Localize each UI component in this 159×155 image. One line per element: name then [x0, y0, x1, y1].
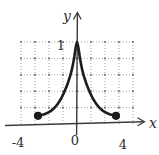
- y-tick-label-1: 1: [57, 38, 65, 53]
- grid-intersection-dot: [62, 58, 64, 60]
- function-plot-canvas: y 1 0 -4 4 x: [0, 0, 159, 155]
- grid-intersection-dot: [20, 58, 22, 60]
- grid-intersection-dot: [132, 107, 134, 109]
- x-tick-label-pos4: 4: [119, 137, 127, 152]
- left-endpoint-dot: [34, 112, 42, 120]
- y-axis-line: [77, 13, 78, 135]
- grid-intersection-dot: [20, 90, 22, 92]
- grid-intersection-dot: [118, 41, 120, 43]
- grid-intersection-dot: [118, 74, 120, 76]
- grid-intersection-dot: [90, 107, 92, 109]
- function-plot-figure: y 1 0 -4 4 x: [0, 0, 159, 155]
- right-endpoint-dot: [112, 112, 120, 120]
- grid-intersection-dot: [34, 58, 36, 60]
- grid-intersection-dot: [34, 74, 36, 76]
- origin-label: 0: [71, 133, 79, 148]
- grid-intersection-dot: [118, 107, 120, 109]
- grid-intersection-dot: [118, 58, 120, 60]
- grid-intersection-dot: [104, 58, 106, 60]
- grid-intersection-dot: [118, 90, 120, 92]
- grid-intersection-dot: [20, 74, 22, 76]
- grid-intersection-dot: [34, 41, 36, 43]
- grid-intersection-dot: [132, 41, 134, 43]
- grid-intersection-dot: [132, 58, 134, 60]
- grid-intersection-dot: [62, 107, 64, 109]
- grid-intersection-dot: [62, 74, 64, 76]
- x-tick-label-neg4: -4: [12, 135, 25, 150]
- x-axis-label: x: [149, 115, 157, 131]
- grid-intersection-dot: [104, 74, 106, 76]
- grid-intersection-dot: [48, 74, 50, 76]
- grid-intersection-dot: [90, 74, 92, 76]
- grid-intersection-dot: [132, 90, 134, 92]
- grid-intersection-dot: [132, 74, 134, 76]
- grid-intersection-dot: [90, 58, 92, 60]
- grid-intersection-dot: [90, 41, 92, 43]
- grid-intersection-dot: [104, 107, 106, 109]
- grid-intersection-dot: [48, 58, 50, 60]
- grid-intersection-dot: [48, 107, 50, 109]
- grid-intersection-dot: [48, 41, 50, 43]
- x-axis-line: [5, 122, 143, 126]
- grid-intersection-dot: [20, 41, 22, 43]
- grid-intersection-dot: [34, 90, 36, 92]
- grid-intersection-dot: [104, 41, 106, 43]
- grid-intersection-dot: [20, 107, 22, 109]
- grid-intersection-dot: [48, 90, 50, 92]
- y-axis-label: y: [62, 8, 72, 24]
- grid-intersection-dot: [104, 90, 106, 92]
- grid-intersection-dot: [34, 107, 36, 109]
